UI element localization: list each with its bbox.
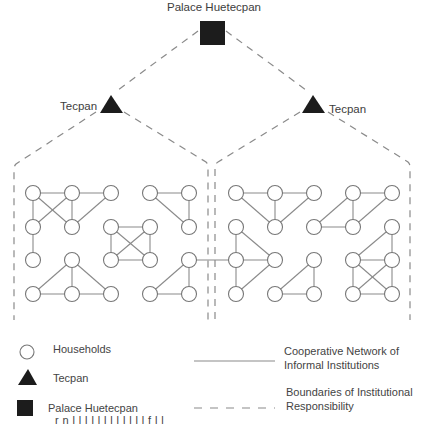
household-node <box>307 220 322 235</box>
tecpan-left-label: Tecpan <box>60 100 97 113</box>
household-node <box>143 253 158 268</box>
household-node <box>268 287 283 302</box>
household-node <box>143 287 158 302</box>
household-node <box>65 186 80 201</box>
tecpan-right-triangle-icon <box>302 95 325 113</box>
household-node <box>229 253 244 268</box>
household-node <box>26 287 41 302</box>
household-nodes <box>26 186 400 302</box>
household-node <box>182 186 197 201</box>
household-node <box>104 220 119 235</box>
household-node <box>26 186 41 201</box>
palace-huetecpan-label: Palace Huetecpan <box>167 1 261 14</box>
legend-household-circle-icon <box>20 345 34 359</box>
legend-tecpan-label: Tecpan <box>53 372 88 385</box>
palace-to-left-tecpan-line <box>118 31 198 90</box>
legend-boundaries-line2: Responsibility <box>286 400 354 413</box>
household-node <box>182 220 197 235</box>
household-node <box>307 253 322 268</box>
household-node <box>26 220 41 235</box>
household-node <box>229 287 244 302</box>
household-node <box>307 186 322 201</box>
legend-households-label: Households <box>53 343 111 356</box>
household-node <box>268 186 283 201</box>
palace-huetecpan-square-icon <box>200 21 225 45</box>
household-node <box>268 220 283 235</box>
household-node <box>104 287 119 302</box>
household-node <box>65 287 80 302</box>
household-node <box>182 287 197 302</box>
household-node <box>346 220 361 235</box>
tecpan-right-label: Tecpan <box>329 103 366 116</box>
legend-boundaries-line1: Boundaries of Institutional <box>286 386 413 399</box>
household-node <box>104 253 119 268</box>
household-node <box>26 253 41 268</box>
tecpan-left-triangle-icon <box>100 95 123 113</box>
household-node <box>385 287 400 302</box>
household-node <box>182 253 197 268</box>
legend-palace-square-icon <box>17 400 33 416</box>
household-node <box>385 220 400 235</box>
household-node <box>143 186 158 201</box>
household-node <box>104 186 119 201</box>
household-node <box>385 186 400 201</box>
household-node <box>65 220 80 235</box>
household-node <box>268 253 283 268</box>
cooperative-network-edges <box>33 193 392 294</box>
household-node <box>346 287 361 302</box>
left-boundary-outer <box>14 112 96 320</box>
legend-cooperative-line1: Cooperative Network of <box>284 345 399 358</box>
household-node <box>385 253 400 268</box>
household-node <box>307 287 322 302</box>
household-node <box>65 253 80 268</box>
household-node <box>346 253 361 268</box>
caption-cut-off: r n l l l l l l l l l l l l f l l <box>55 414 164 424</box>
legend-tecpan-triangle-icon <box>18 369 37 385</box>
palace-to-right-tecpan-line <box>226 31 306 90</box>
left-boundary-inner <box>124 112 208 320</box>
legend-cooperative-line2: Informal Institutions <box>284 359 379 372</box>
household-node <box>143 220 158 235</box>
household-node <box>229 186 244 201</box>
household-node <box>346 186 361 201</box>
household-node <box>229 220 244 235</box>
hierarchy-boundaries <box>14 31 410 320</box>
